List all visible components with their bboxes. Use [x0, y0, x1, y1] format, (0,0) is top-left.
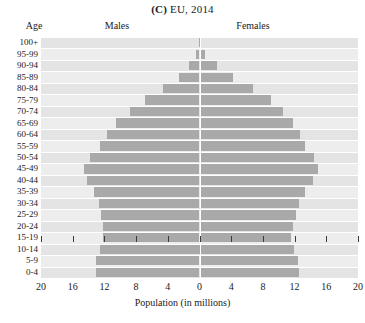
bar-females-60-64 [200, 130, 301, 139]
bar-females-0-4 [200, 268, 299, 277]
x-tick-mark [104, 236, 105, 242]
chart-title: (C) EU, 2014 [0, 3, 365, 15]
age-label-5-9: 5-9 [0, 256, 38, 265]
age-label-55-59: 55-59 [0, 142, 38, 151]
x-tick-label-4-4: 4 [156, 281, 180, 292]
age-label-40-44: 40-44 [0, 176, 38, 185]
x-tick-mark [231, 236, 232, 242]
bar-males-5-9 [96, 256, 199, 265]
age-label-90-94: 90-94 [0, 61, 38, 70]
age-label-95-99: 95-99 [0, 50, 38, 59]
bar-males-50-54 [90, 153, 199, 162]
gridline [41, 278, 358, 279]
bar-females-25-29 [200, 210, 297, 219]
bar-females-55-59 [200, 141, 305, 150]
bar-males-75-79 [145, 95, 200, 104]
x-tick-mark [263, 236, 264, 242]
x-tick-mark [41, 236, 42, 242]
x-tick-mark [168, 236, 169, 242]
age-label-35-39: 35-39 [0, 187, 38, 196]
x-tick-label-8-3: 8 [124, 281, 148, 292]
x-tick-label-12-2: 12 [92, 281, 116, 292]
bar-males-30-34 [99, 199, 200, 208]
x-tick-mark [73, 236, 74, 242]
x-tick-label-12-8: 12 [283, 281, 307, 292]
age-label-0-4: 0-4 [0, 268, 38, 277]
bar-males-60-64 [107, 130, 200, 139]
bar-males-90-94 [189, 61, 199, 70]
age-label-65-69: 65-69 [0, 119, 38, 128]
bar-females-85-89 [200, 73, 233, 82]
age-label-60-64: 60-64 [0, 130, 38, 139]
age-label-75-79: 75-79 [0, 96, 38, 105]
bar-females-5-9 [200, 256, 298, 265]
age-label-30-34: 30-34 [0, 199, 38, 208]
bar-males-25-29 [101, 210, 199, 219]
bar-females-40-44 [200, 176, 313, 185]
age-label-85-89: 85-89 [0, 73, 38, 82]
x-tick-mark [200, 236, 201, 242]
age-label-25-29: 25-29 [0, 210, 38, 219]
x-axis-title: Population (in millions) [0, 297, 365, 308]
bar-males-20-24 [103, 222, 200, 231]
x-tick-label-4-6: 4 [219, 281, 243, 292]
age-label-15-19: 15-19 [0, 233, 38, 242]
bar-males-55-59 [100, 141, 200, 150]
bar-females-15-19 [200, 233, 292, 242]
x-tick-label-20-10: 20 [346, 281, 365, 292]
panel-letter: (C) [151, 3, 167, 15]
bar-males-40-44 [87, 176, 200, 185]
bar-females-75-79 [200, 95, 271, 104]
bar-females-30-34 [200, 199, 300, 208]
bar-males-45-49 [84, 164, 200, 173]
bar-females-80-84 [200, 84, 253, 93]
x-tick-mark [326, 236, 327, 242]
bar-males-80-84 [163, 84, 199, 93]
age-label-100+: 100+ [0, 38, 38, 47]
bar-females-70-74 [200, 107, 283, 116]
bar-females-20-24 [200, 222, 294, 231]
bar-females-10-14 [200, 245, 294, 254]
bar-males-0-4 [96, 268, 200, 277]
x-tick-mark [358, 236, 359, 242]
bar-females-65-69 [200, 118, 294, 127]
age-label-70-74: 70-74 [0, 107, 38, 116]
bar-males-85-89 [179, 73, 200, 82]
age-label-50-54: 50-54 [0, 153, 38, 162]
bar-males-10-14 [100, 245, 199, 254]
x-tick-label-20-0: 20 [29, 281, 53, 292]
age-label-80-84: 80-84 [0, 84, 38, 93]
age-column-header: Age [14, 20, 54, 31]
bar-females-90-94 [200, 61, 217, 70]
bar-males-15-19 [103, 233, 200, 242]
bar-females-50-54 [200, 153, 314, 162]
population-pyramid-figure: (C) EU, 2014 Age Males Females 100+95-99… [0, 0, 365, 323]
age-label-45-49: 45-49 [0, 164, 38, 173]
bar-females-45-49 [200, 164, 318, 173]
chart-title-text: EU, 2014 [170, 3, 214, 15]
x-tick-label-0-5: 0 [188, 281, 212, 292]
age-label-20-24: 20-24 [0, 222, 38, 231]
x-tick-label-16-1: 16 [61, 281, 85, 292]
x-tick-mark [136, 236, 137, 242]
x-tick-mark [295, 236, 296, 242]
bar-males-35-39 [94, 187, 199, 196]
x-tick-label-8-7: 8 [251, 281, 275, 292]
males-column-header: Males [77, 20, 157, 31]
females-column-header: Females [208, 20, 298, 31]
bar-males-65-69 [116, 118, 199, 127]
age-label-10-14: 10-14 [0, 245, 38, 254]
bar-males-70-74 [130, 107, 200, 116]
x-tick-label-16-9: 16 [314, 281, 338, 292]
bar-females-35-39 [200, 187, 305, 196]
